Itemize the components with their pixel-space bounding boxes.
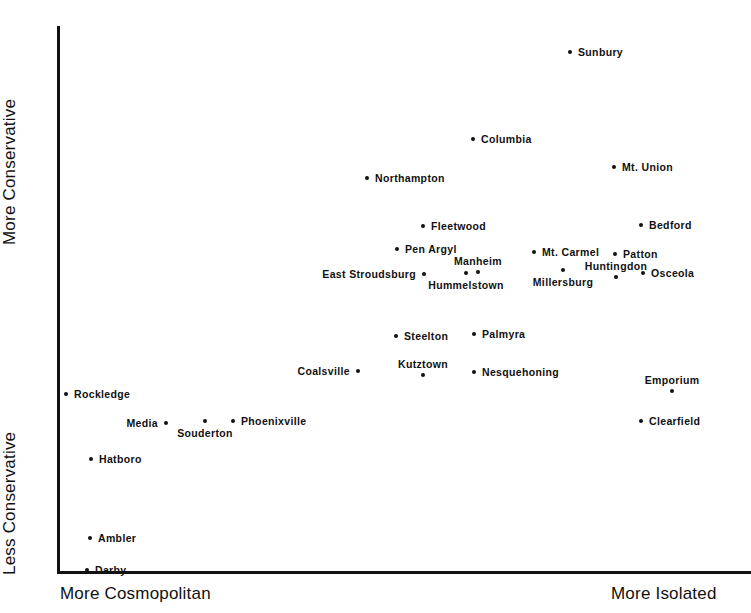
- data-point: [395, 247, 399, 251]
- data-point: [464, 271, 468, 275]
- data-point-label: Emporium: [645, 375, 700, 386]
- data-point-label: Bedford: [649, 220, 692, 231]
- data-point-label: Palmyra: [482, 329, 525, 340]
- data-point: [64, 392, 68, 396]
- data-point-label: Mt. Carmel: [542, 247, 599, 258]
- data-point: [613, 252, 617, 256]
- data-point: [422, 272, 426, 276]
- data-point-label: Huntingdon: [585, 261, 647, 272]
- data-point: [164, 421, 168, 425]
- data-point: [561, 268, 565, 272]
- data-point: [476, 270, 480, 274]
- data-point: [394, 334, 398, 338]
- data-point-label: Hummelstown: [428, 280, 504, 291]
- x-axis-label-more-isolated: More Isolated: [611, 584, 717, 604]
- x-axis-label-more-cosmopolitan: More Cosmopolitan: [60, 584, 211, 604]
- data-point-label: Rockledge: [74, 389, 130, 400]
- data-point: [670, 389, 674, 393]
- data-point: [472, 370, 476, 374]
- data-point: [231, 419, 235, 423]
- data-point-label: Steelton: [404, 331, 448, 342]
- scatter-plot: More Conservative Less Conservative More…: [0, 0, 751, 613]
- data-point-label: Coalsville: [297, 366, 350, 377]
- data-point: [365, 176, 369, 180]
- data-point-label: Ambler: [98, 533, 136, 544]
- x-axis-line: [57, 571, 751, 574]
- data-point-label: Northampton: [375, 173, 445, 184]
- data-point-label: Manheim: [454, 256, 502, 267]
- data-point-label: Pen Argyl: [405, 244, 457, 255]
- data-point: [472, 332, 476, 336]
- data-point-label: Fleetwood: [431, 221, 486, 232]
- data-point-label: Hatboro: [99, 454, 142, 465]
- data-point-label: Phoenixville: [241, 416, 306, 427]
- data-point: [639, 419, 643, 423]
- data-point-label: Mt. Union: [622, 162, 673, 173]
- data-point-label: Kutztown: [398, 359, 448, 370]
- data-point: [203, 419, 207, 423]
- data-point: [612, 165, 616, 169]
- data-point: [641, 271, 645, 275]
- data-point-label: Souderton: [177, 428, 233, 439]
- data-point-label: Clearfield: [649, 416, 700, 427]
- data-point: [88, 536, 92, 540]
- data-point: [614, 275, 618, 279]
- data-point-label: Millersburg: [533, 277, 593, 288]
- data-point: [532, 250, 536, 254]
- data-point: [471, 137, 475, 141]
- data-point-label: Darby: [95, 565, 127, 576]
- y-axis-label-less-conservative: Less Conservative: [0, 432, 20, 575]
- data-point: [421, 373, 425, 377]
- data-point-label: Sunbury: [578, 47, 623, 58]
- data-point-label: Nesquehoning: [482, 367, 559, 378]
- data-point: [421, 224, 425, 228]
- data-point-label: Media: [126, 418, 158, 429]
- data-point: [85, 568, 89, 572]
- data-point: [356, 369, 360, 373]
- y-axis-line: [57, 26, 60, 574]
- data-point: [639, 223, 643, 227]
- data-point-label: Patton: [623, 249, 658, 260]
- data-point-label: Columbia: [481, 134, 532, 145]
- data-point-label: Osceola: [651, 268, 694, 279]
- data-point: [89, 457, 93, 461]
- y-axis-label-more-conservative: More Conservative: [0, 99, 20, 245]
- data-point: [568, 50, 572, 54]
- data-point-label: East Stroudsburg: [322, 269, 416, 280]
